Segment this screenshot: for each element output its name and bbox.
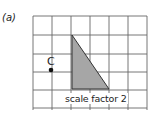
- point-label: C: [47, 55, 55, 68]
- center-point-c: [49, 68, 54, 73]
- triangle-shape: [72, 35, 109, 89]
- caption: scale factor 2: [64, 93, 128, 104]
- part-label: (a): [2, 12, 16, 23]
